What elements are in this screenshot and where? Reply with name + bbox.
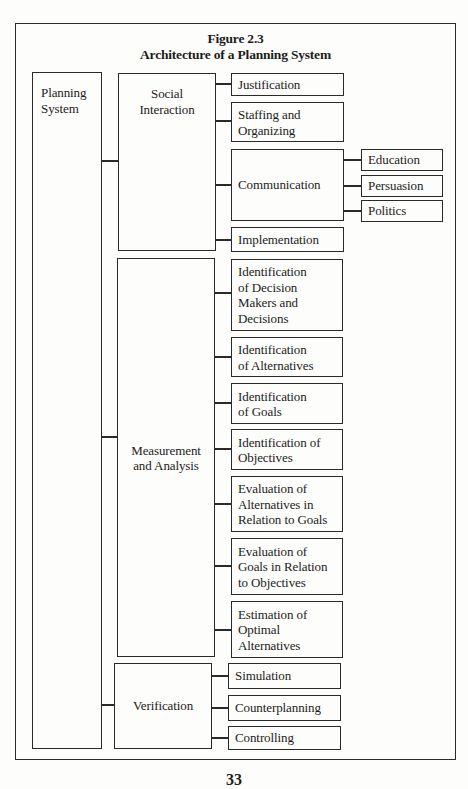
node-label: Verification [115,698,211,714]
node-staffing-organizing: Staffing and Organizing [231,102,344,142]
node-label: Staffing and Organizing [238,107,340,138]
node-label: Evaluation of Goals in Relation to Objec… [238,543,339,590]
node-label: Social Interaction [119,86,215,117]
node-label: Identification of Goals [238,388,339,419]
node-social-interaction: Social Interaction [118,73,216,251]
node-label: Education [368,152,439,168]
node-label: Measurement and Analysis [118,442,214,473]
node-communication: Communication [231,149,344,221]
node-estimation-optimal: Estimation of Optimal Alternatives [231,601,343,658]
connector [343,210,362,212]
connector [343,159,362,161]
node-id-goals: Identification of Goals [231,383,343,424]
connector [343,185,362,187]
node-label: Simulation [235,668,337,684]
node-label: Persuasion [368,178,439,194]
connector [214,565,232,567]
node-label: Estimation of Optimal Alternatives [238,606,339,653]
connector [214,402,232,404]
node-label: Identification of Objectives [238,434,339,465]
node-counterplanning: Counterplanning [228,695,341,721]
node-id-alternatives: Identification of Alternatives [231,337,343,377]
connector [215,120,232,122]
node-education: Education [361,149,443,171]
node-label: Evaluation of Alternatives in Relation t… [238,481,339,528]
connector [211,675,229,677]
node-id-objectives: Identification of Objectives [231,429,343,470]
node-label: Planning System [41,85,86,116]
connector [214,448,232,450]
connector [215,239,232,241]
node-id-decision-makers: Identification of Decision Makers and De… [231,259,343,331]
node-label: Politics [368,203,439,219]
connector [214,629,232,631]
node-label: Controlling [235,730,337,746]
node-controlling: Controlling [228,726,341,750]
node-eval-alternatives: Evaluation of Alternatives in Relation t… [231,476,343,532]
page-number: 33 [0,771,468,789]
connector [215,83,232,85]
figure-title: Architecture of a Planning System [15,47,456,63]
connector [214,356,232,358]
node-label: Communication [238,177,340,193]
node-planning-system: Planning System [32,72,102,749]
node-persuasion: Persuasion [361,175,443,197]
node-eval-goals: Evaluation of Goals in Relation to Objec… [231,538,343,595]
connector [214,292,232,294]
node-justification: Justification [231,73,344,96]
node-implementation: Implementation [231,227,344,252]
connector-root-social [101,160,119,162]
node-label: Implementation [238,232,340,248]
connector [211,737,229,739]
node-label: Identification of Decision Makers and De… [238,264,339,326]
connector [214,503,232,505]
node-simulation: Simulation [228,663,341,689]
node-label: Counterplanning [235,700,337,716]
node-label: Identification of Alternatives [238,342,339,373]
node-measurement-analysis: Measurement and Analysis [117,258,215,657]
node-label: Justification [238,77,340,93]
connector [215,184,232,186]
node-politics: Politics [361,200,443,222]
connector [211,707,229,709]
figure-number: Figure 2.3 [15,31,456,47]
node-verification: Verification [114,663,212,749]
